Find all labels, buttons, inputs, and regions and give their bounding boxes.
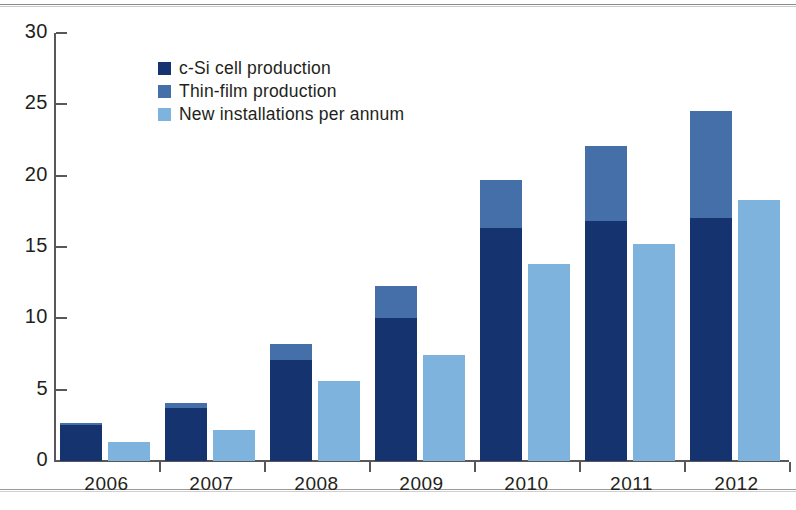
bar-segment-thin-film — [375, 286, 417, 319]
x-axis-tick-label: 2006 — [54, 473, 159, 495]
bar-segment-thin-film — [60, 423, 102, 426]
x-axis-tick-label: 2010 — [474, 473, 579, 495]
bar-segment-thin-film — [480, 180, 522, 229]
bar-production-stack — [585, 146, 627, 461]
legend-item: c-Si cell production — [158, 57, 488, 80]
bar-production-stack — [165, 403, 207, 461]
legend-item-label: New installations per annum — [179, 104, 404, 125]
bar-segment-csi — [690, 218, 732, 461]
bar-segment-thin-film — [585, 146, 627, 222]
bar-new-installations — [213, 430, 255, 461]
bar-new-installations — [738, 200, 780, 461]
bar-production-stack — [60, 422, 102, 461]
bar-production-stack — [270, 344, 312, 461]
x-axis-tick — [684, 462, 686, 472]
x-axis-tick-label: 2011 — [579, 473, 684, 495]
y-axis-tick-label: 5 — [36, 377, 48, 400]
y-axis-tick-label: 15 — [25, 234, 48, 257]
legend-item-label: c-Si cell production — [179, 58, 331, 79]
bar-segment-csi — [480, 228, 522, 461]
bar-new-installations — [318, 381, 360, 461]
bar-new-installations — [423, 355, 465, 461]
page-rule-top-2 — [0, 6, 796, 7]
bar-production-stack — [690, 111, 732, 461]
bar-new-installations — [108, 442, 150, 461]
y-axis-tick-label: 10 — [25, 305, 48, 328]
x-axis-tick — [579, 462, 581, 472]
bar-production-stack — [375, 286, 417, 461]
x-axis-tick-label: 2007 — [159, 473, 264, 495]
y-axis-tick-label: 30 — [25, 20, 48, 43]
bar-segment-csi — [270, 360, 312, 461]
x-axis-tick — [474, 462, 476, 472]
legend-swatch-icon — [158, 62, 171, 75]
x-axis-tick-label: 2008 — [264, 473, 369, 495]
x-axis-tick — [159, 462, 161, 472]
page-rule-top — [0, 4, 796, 5]
bar-new-installations — [528, 264, 570, 461]
bar-segment-csi — [165, 408, 207, 461]
x-axis-tick-label: 2012 — [684, 473, 789, 495]
x-axis-tick — [264, 462, 266, 472]
bar-segment-thin-film — [165, 403, 207, 409]
y-axis-tick-label: 0 — [36, 448, 48, 471]
bar-segment-csi — [585, 221, 627, 461]
bar-segment-csi — [60, 425, 102, 461]
bar-production-stack — [480, 180, 522, 461]
chart-legend: c-Si cell productionThin-film production… — [158, 57, 488, 126]
bar-segment-csi — [375, 318, 417, 461]
legend-swatch-icon — [158, 108, 171, 121]
x-axis-tick — [789, 462, 791, 472]
chart-figure: 051015202530 200620072008200920102011201… — [0, 0, 796, 510]
x-axis-tick — [369, 462, 371, 472]
bar-segment-thin-film — [690, 111, 732, 218]
legend-item: Thin-film production — [158, 80, 488, 103]
x-axis-tick-label: 2009 — [369, 473, 474, 495]
bar-segment-thin-film — [270, 344, 312, 360]
y-axis-tick-label: 25 — [25, 91, 48, 114]
bar-new-installations — [633, 244, 675, 461]
y-axis-tick-label: 20 — [25, 163, 48, 186]
legend-swatch-icon — [158, 85, 171, 98]
legend-item-label: Thin-film production — [179, 81, 337, 102]
legend-item: New installations per annum — [158, 103, 488, 126]
